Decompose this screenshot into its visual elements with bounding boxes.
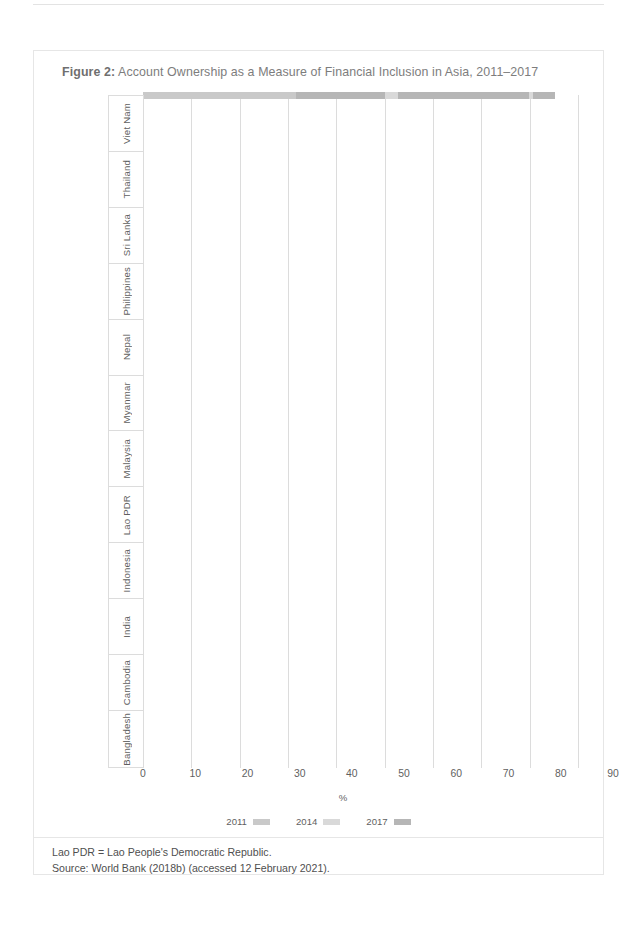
category-label-nepal: Nepal	[109, 320, 143, 376]
legend-item-2011[interactable]: 2011	[226, 816, 270, 827]
category-label-philippines: Philippines	[109, 264, 143, 320]
page: Figure 2: Account Ownership as a Measure…	[0, 0, 637, 925]
footer-divider	[34, 837, 603, 838]
category-label-text: Nepal	[121, 334, 132, 360]
x-tick-label-80: 80	[555, 768, 567, 779]
chart-legend: 201120142017	[34, 816, 603, 827]
category-label-indonesia: Indonesia	[109, 543, 143, 599]
figure-number: Figure 2:	[62, 65, 115, 79]
category-label-viet-nam: Viet Nam	[109, 96, 143, 152]
category-label-text: Indonesia	[121, 549, 132, 592]
gridline-80	[530, 95, 531, 768]
gridline-10	[191, 95, 192, 768]
legend-swatch	[253, 819, 270, 825]
legend-label: 2011	[226, 816, 247, 827]
category-label-text: Philippines	[121, 267, 132, 316]
category-label-lao-pdr: Lao PDR	[109, 487, 143, 543]
category-label-thailand: Thailand	[109, 152, 143, 208]
category-label-text: Myanmar	[121, 382, 132, 423]
x-axis-label: %	[339, 792, 348, 803]
gridline-90	[578, 95, 579, 768]
footnote-abbreviation: Lao PDR = Lao People's Democratic Republ…	[52, 845, 589, 861]
x-tick-label-20: 20	[242, 768, 254, 779]
x-axis-label-wrap: %	[108, 787, 578, 805]
legend-swatch	[323, 819, 340, 825]
x-tick-label-90: 90	[607, 768, 619, 779]
gridlines	[143, 95, 578, 768]
bar-bangladesh-2011[interactable]	[143, 92, 296, 99]
page-top-rule	[33, 4, 604, 5]
category-label-text: Thailand	[121, 160, 132, 198]
x-tick-label-0: 0	[140, 768, 146, 779]
legend-item-2014[interactable]: 2014	[296, 816, 340, 827]
figure-container: Figure 2: Account Ownership as a Measure…	[33, 50, 604, 875]
x-axis-ticks: 0102030405060708090	[143, 768, 613, 782]
figure-title-text: Account Ownership as a Measure of Financ…	[118, 65, 538, 79]
category-label-malaysia: Malaysia	[109, 431, 143, 487]
footnote-source: Source: World Bank (2018b) (accessed 12 …	[52, 861, 589, 877]
x-tick-label-70: 70	[503, 768, 515, 779]
category-label-text: India	[121, 616, 132, 638]
category-label-text: Malaysia	[121, 439, 132, 478]
category-label-bangladesh: Bangladesh	[109, 711, 143, 767]
category-label-text: Viet Nam	[121, 103, 132, 144]
gridline-30	[288, 95, 289, 768]
category-label-text: Lao PDR	[121, 495, 132, 535]
legend-label: 2014	[296, 816, 317, 827]
gridline-70	[481, 95, 482, 768]
x-tick-label-60: 60	[451, 768, 463, 779]
gridline-40	[336, 95, 337, 768]
category-label-sri-lanka: Sri Lanka	[109, 208, 143, 264]
gridline-50	[385, 95, 386, 768]
category-axis: Viet NamThailandSri LankaPhilippinesNepa…	[108, 95, 144, 768]
x-tick-label-50: 50	[398, 768, 410, 779]
category-label-india: India	[109, 599, 143, 655]
plot-area: Viet NamThailandSri LankaPhilippinesNepa…	[108, 95, 578, 768]
x-tick-label-10: 10	[189, 768, 201, 779]
figure-title: Figure 2: Account Ownership as a Measure…	[62, 65, 538, 79]
gridline-20	[240, 95, 241, 768]
legend-swatch	[394, 819, 411, 825]
x-tick-label-30: 30	[294, 768, 306, 779]
category-label-myanmar: Myanmar	[109, 376, 143, 432]
category-label-cambodia: Cambodia	[109, 655, 143, 711]
category-label-text: Bangladesh	[121, 713, 132, 766]
category-label-text: Sri Lanka	[121, 214, 132, 256]
legend-item-2017[interactable]: 2017	[366, 816, 410, 827]
figure-footnotes: Lao PDR = Lao People's Democratic Republ…	[52, 845, 589, 876]
category-label-text: Cambodia	[121, 660, 132, 705]
gridline-60	[433, 95, 434, 768]
legend-label: 2017	[366, 816, 387, 827]
bars-area	[143, 95, 578, 768]
x-tick-label-40: 40	[346, 768, 358, 779]
